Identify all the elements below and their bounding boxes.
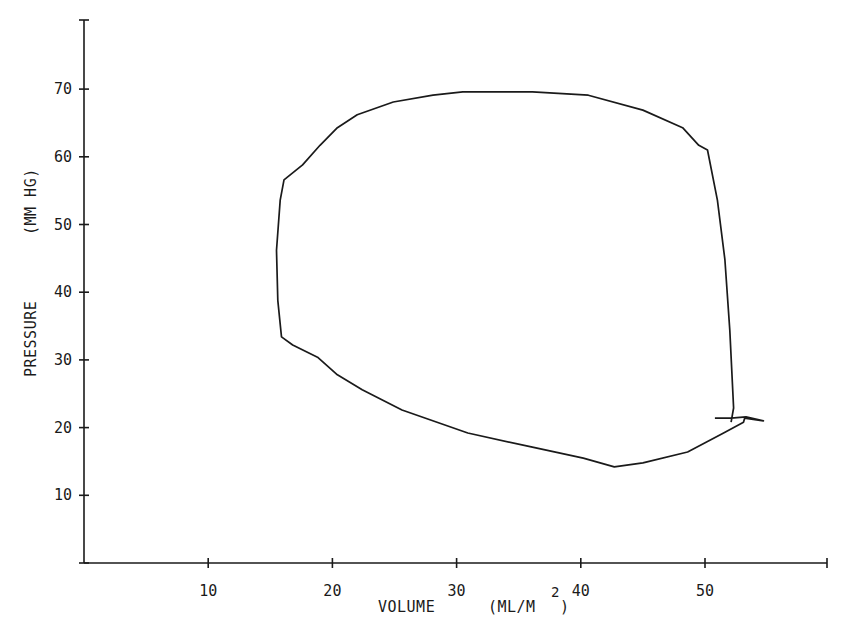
y-tick-label: 70 bbox=[54, 80, 72, 98]
x-tick-label: 30 bbox=[448, 582, 466, 600]
y-tick-label: 30 bbox=[54, 351, 72, 369]
y-tick-label: 20 bbox=[54, 419, 72, 437]
plot-area bbox=[277, 92, 764, 467]
chart-canvas: 102030405060701020304050 PRESSURE (MM HG… bbox=[0, 0, 847, 634]
y-tick-label: 60 bbox=[54, 148, 72, 166]
x-axis-units-close: ) bbox=[560, 598, 570, 616]
x-axis-units: (ML/M bbox=[488, 598, 536, 616]
y-tick-label: 10 bbox=[54, 486, 72, 504]
pv-loop-curve bbox=[277, 92, 764, 467]
y-tick-label: 40 bbox=[54, 283, 72, 301]
x-tick-label: 10 bbox=[199, 582, 217, 600]
x-tick-label: 40 bbox=[572, 582, 590, 600]
y-axis-units: (MM HG) bbox=[22, 168, 40, 235]
x-tick-label: 20 bbox=[323, 582, 341, 600]
y-tick-label: 50 bbox=[54, 216, 72, 234]
axes: 102030405060701020304050 bbox=[54, 20, 827, 600]
y-axis-title: PRESSURE bbox=[22, 301, 40, 377]
x-axis-title: VOLUME bbox=[378, 598, 435, 616]
x-axis-units-superscript: 2 bbox=[551, 584, 560, 600]
axis-labels: PRESSURE (MM HG) VOLUME (ML/M 2 ) bbox=[22, 168, 570, 616]
x-tick-label: 50 bbox=[696, 582, 714, 600]
pressure-volume-chart: 102030405060701020304050 PRESSURE (MM HG… bbox=[0, 0, 847, 634]
